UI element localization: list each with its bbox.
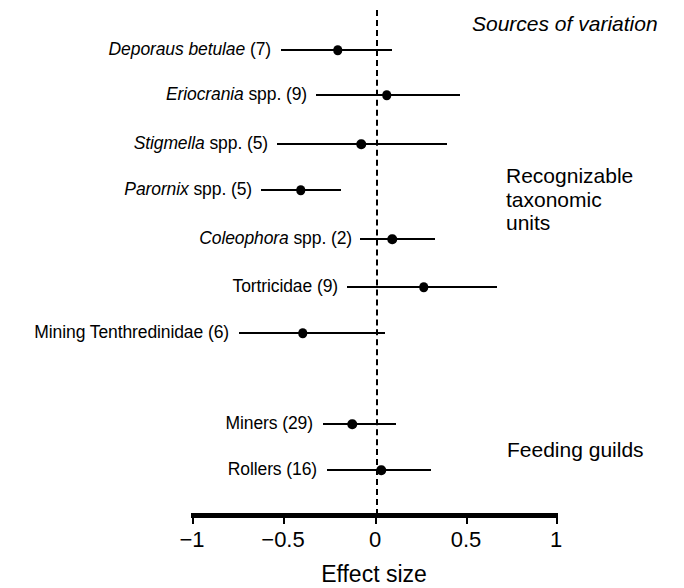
row-label: Rollers (16) bbox=[228, 461, 317, 479]
row-label-taxon: Parornix bbox=[124, 179, 188, 199]
row-label-suffix: spp. (9) bbox=[244, 84, 307, 104]
effect-size-point bbox=[298, 328, 308, 338]
row-label-suffix: Miners (29) bbox=[226, 413, 313, 433]
x-axis-tick--0-5 bbox=[283, 513, 285, 524]
x-axis-tick-1 bbox=[556, 513, 558, 524]
x-axis-ticklabel-1: 1 bbox=[550, 529, 562, 551]
row-label-suffix: Rollers (16) bbox=[228, 459, 317, 479]
row-label-suffix: Tortricidae (9) bbox=[233, 276, 338, 296]
forest-plot-figure: Deporaus betulae (7)Eriocrania spp. (9)S… bbox=[0, 0, 684, 588]
x-axis-ticklabel-0-5: 0.5 bbox=[451, 529, 482, 551]
x-axis-title: Effect size bbox=[321, 563, 427, 586]
row-label: Parornix spp. (5) bbox=[124, 181, 252, 199]
row-label-suffix: (7) bbox=[245, 39, 271, 59]
annotation-sources-of-variation: Sources of variation bbox=[472, 12, 658, 36]
x-axis-ticklabel--1: −1 bbox=[179, 529, 204, 551]
row-label: Stigmella spp. (5) bbox=[134, 135, 268, 153]
x-axis-tick-0 bbox=[375, 513, 377, 524]
row-label: Mining Tenthredinidae (6) bbox=[34, 324, 229, 342]
row-label-suffix: spp. (5) bbox=[205, 133, 268, 153]
confidence-interval-line bbox=[239, 332, 385, 334]
effect-size-point bbox=[296, 185, 306, 195]
zero-reference-line bbox=[376, 10, 378, 515]
effect-size-point bbox=[388, 234, 398, 244]
row-label: Deporaus betulae (7) bbox=[109, 41, 271, 59]
effect-size-point bbox=[333, 45, 343, 55]
effect-size-point bbox=[419, 282, 429, 292]
row-label: Eriocrania spp. (9) bbox=[166, 86, 307, 104]
confidence-interval-line bbox=[323, 423, 396, 425]
annotation-feeding-guilds: Feeding guilds bbox=[507, 438, 644, 462]
row-label-taxon: Coleophora bbox=[199, 228, 288, 248]
annotation-recognizable-taxonomic-units: Recognizable taxonomic units bbox=[506, 164, 633, 235]
row-label: Coleophora spp. (2) bbox=[199, 230, 352, 248]
effect-size-point bbox=[357, 139, 367, 149]
row-label-taxon: Stigmella bbox=[134, 133, 205, 153]
row-label-taxon: Deporaus betulae bbox=[109, 39, 246, 59]
x-axis-ticklabel--0-5: −0.5 bbox=[261, 529, 304, 551]
row-label: Tortricidae (9) bbox=[233, 278, 338, 296]
x-axis-ticklabel-0: 0 bbox=[369, 529, 381, 551]
effect-size-point bbox=[347, 419, 357, 429]
row-label: Miners (29) bbox=[226, 415, 313, 433]
row-label-suffix: spp. (2) bbox=[289, 228, 352, 248]
row-label-suffix: Mining Tenthredinidae (6) bbox=[34, 322, 229, 342]
effect-size-point bbox=[377, 465, 387, 475]
x-axis-tick--1 bbox=[192, 513, 194, 524]
row-label-taxon: Eriocrania bbox=[166, 84, 244, 104]
x-axis-tick-0-5 bbox=[466, 513, 468, 524]
effect-size-point bbox=[382, 90, 392, 100]
row-label-suffix: spp. (5) bbox=[189, 179, 252, 199]
